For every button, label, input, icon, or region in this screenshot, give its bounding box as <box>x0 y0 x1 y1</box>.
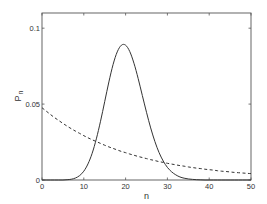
y-axis-label-main: P <box>13 95 23 101</box>
x-tick-label: 30 <box>163 182 171 191</box>
x-axis-label: n <box>144 191 149 201</box>
y-tick-label: 0.1 <box>30 24 40 33</box>
plot-area <box>42 13 251 180</box>
y-tick-label: 0 <box>36 176 40 185</box>
x-tick-label: 40 <box>205 182 213 191</box>
x-tick-label: 50 <box>247 182 255 191</box>
x-tick-label: 0 <box>40 182 44 191</box>
y-tick-label: 0.05 <box>25 100 40 109</box>
y-axis-label-sub: n <box>17 90 24 94</box>
y-axis-label: Pn <box>13 90 24 101</box>
chart: 01020304050 00.050.1 n Pn <box>0 0 267 204</box>
x-tick-label: 20 <box>121 182 129 191</box>
svg-text:Pn: Pn <box>13 90 24 101</box>
x-tick-label: 10 <box>80 182 88 191</box>
